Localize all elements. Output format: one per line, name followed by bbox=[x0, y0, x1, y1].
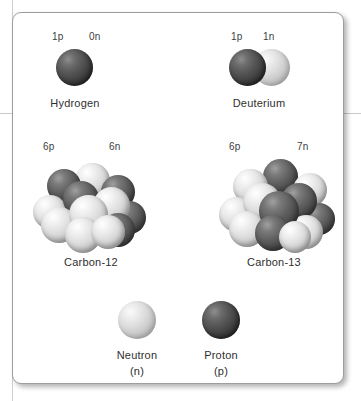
deuterium-proton-label: 1p bbox=[231, 31, 243, 43]
carbon12-neutron-label: 6n bbox=[109, 141, 121, 153]
carbon12-neutron-f3 bbox=[91, 215, 125, 249]
deuterium-proton-sphere bbox=[229, 49, 266, 86]
carbon13-proton-label: 6p bbox=[229, 141, 241, 153]
legend-neutron-sphere bbox=[118, 301, 156, 339]
deuterium-neutron-label: 1n bbox=[263, 31, 275, 43]
carbon12-proton-label: 6p bbox=[43, 141, 55, 153]
carbon13-neutron-f1 bbox=[279, 221, 311, 253]
legend-proton-name: Proton bbox=[169, 349, 273, 362]
legend-proton-sphere bbox=[202, 301, 240, 339]
hydrogen-neutron-label: 0n bbox=[89, 31, 101, 43]
figure-card: 1p 0n Hydrogen 1p 1n Deuterium 6p 6n bbox=[12, 12, 344, 384]
hydrogen-proton-label: 1p bbox=[52, 31, 64, 43]
carbon12-caption: Carbon-12 bbox=[33, 256, 149, 269]
figure-canvas: 1p 0n Hydrogen 1p 1n Deuterium 6p 6n bbox=[0, 0, 361, 401]
carbon13-nucleus-cluster bbox=[217, 159, 339, 253]
deuterium-caption: Deuterium bbox=[206, 97, 312, 110]
hydrogen-caption: Hydrogen bbox=[22, 97, 128, 110]
carbon13-caption: Carbon-13 bbox=[216, 256, 332, 269]
carbon13-neutron-label: 7n bbox=[297, 141, 309, 153]
legend-proton-symbol: (p) bbox=[169, 365, 273, 378]
hydrogen-proton-sphere bbox=[56, 49, 93, 86]
carbon12-nucleus-cluster bbox=[31, 161, 151, 253]
